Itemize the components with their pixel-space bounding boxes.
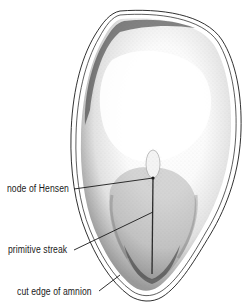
label-node-of-hensen: node of Hensen: [7, 183, 69, 194]
label-primitive-streak: primitive streak: [8, 244, 67, 255]
leader-cut-edge-of-amnion: [99, 275, 120, 291]
label-cut-edge-of-amnion: cut edge of amnion: [17, 286, 92, 297]
embryo-diagram: [0, 0, 246, 306]
